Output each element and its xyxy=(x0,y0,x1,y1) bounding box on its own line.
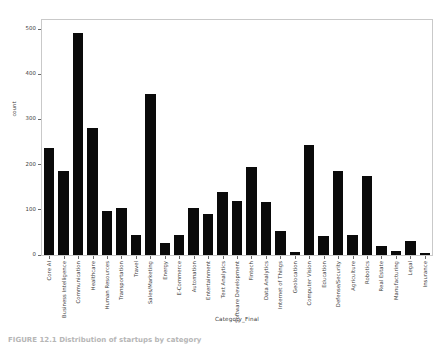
x-tick-mark xyxy=(107,256,108,259)
x-tick-label: Agriculture xyxy=(350,261,356,291)
x-tick-label: Robotics xyxy=(364,261,370,284)
figure-caption: FIGURE 12.1 Distribution of startups by … xyxy=(8,336,308,344)
bar xyxy=(333,20,343,255)
x-tick-label: Transportation xyxy=(118,261,124,300)
x-tick-mark xyxy=(425,256,426,259)
bar-rect xyxy=(290,252,300,255)
bar xyxy=(145,20,155,255)
bar xyxy=(203,20,213,255)
x-tick-mark xyxy=(179,256,180,259)
bar xyxy=(232,20,242,255)
bar-rect xyxy=(58,171,68,255)
bar-rect xyxy=(333,171,343,255)
y-tick-mark xyxy=(38,164,41,165)
bar xyxy=(44,20,54,255)
x-tick-label: Defense/Security xyxy=(335,261,341,307)
x-tick-label: Communication xyxy=(75,261,81,303)
x-tick-mark xyxy=(367,256,368,259)
x-tick-mark xyxy=(150,256,151,259)
x-tick-mark xyxy=(280,256,281,259)
x-tick-label: Energy xyxy=(162,261,168,280)
x-tick-mark xyxy=(78,256,79,259)
bar xyxy=(73,20,83,255)
bar-rect xyxy=(116,208,126,255)
x-tick-mark xyxy=(410,256,411,259)
bar xyxy=(246,20,256,255)
x-tick-mark xyxy=(338,256,339,259)
x-tick-mark xyxy=(309,256,310,259)
x-tick-mark xyxy=(64,256,65,259)
y-tick-label: 300 xyxy=(25,115,36,121)
bar-rect xyxy=(420,253,430,255)
bar-rect xyxy=(318,236,328,255)
x-tick-mark xyxy=(194,256,195,259)
y-tick-mark xyxy=(38,119,41,120)
y-tick-mark xyxy=(38,29,41,30)
x-tick-label: Computer Vision xyxy=(306,261,312,306)
bar-rect xyxy=(188,208,198,255)
x-tick-label: Travel xyxy=(133,261,139,277)
bar xyxy=(420,20,430,255)
bar-rect xyxy=(160,243,170,255)
x-tick-label: Software Development xyxy=(234,261,240,323)
bar-rect xyxy=(275,231,285,255)
bar-rect xyxy=(73,33,83,255)
x-tick-mark xyxy=(208,256,209,259)
bar xyxy=(347,20,357,255)
bar-rect xyxy=(203,214,213,255)
chart-figure: count 0100200300400500 Core AIBusiness I… xyxy=(0,0,447,344)
bar xyxy=(116,20,126,255)
x-tick-label: Business Intelligence xyxy=(61,261,67,318)
y-tick-label: 500 xyxy=(25,25,36,31)
x-tick-mark xyxy=(49,256,50,259)
y-tick-mark xyxy=(38,209,41,210)
bar-rect xyxy=(44,148,54,255)
x-tick-label: Core AI xyxy=(46,261,52,280)
bar xyxy=(391,20,401,255)
x-tick-mark xyxy=(251,256,252,259)
bar-rect xyxy=(131,235,141,255)
x-tick-label: Geolocation xyxy=(292,261,298,293)
bar xyxy=(58,20,68,255)
x-tick-mark xyxy=(324,256,325,259)
bar-rect xyxy=(347,235,357,255)
bar-rect xyxy=(261,202,271,255)
x-tick-label: Data Analytics xyxy=(263,261,269,300)
bar-series xyxy=(42,20,432,255)
x-tick-label: Fintech xyxy=(248,261,254,280)
y-tick-label: 400 xyxy=(25,70,36,76)
x-tick-label: Real Estate xyxy=(378,261,384,291)
x-tick-label: Text Analytics xyxy=(220,261,226,298)
bar xyxy=(217,20,227,255)
x-tick-mark xyxy=(237,256,238,259)
bar xyxy=(318,20,328,255)
x-tick-mark xyxy=(353,256,354,259)
bar-rect xyxy=(304,145,314,255)
bar-rect xyxy=(391,251,401,255)
x-tick-mark xyxy=(93,256,94,259)
bar xyxy=(160,20,170,255)
bar xyxy=(275,20,285,255)
bar xyxy=(405,20,415,255)
x-tick-mark xyxy=(165,256,166,259)
x-tick-mark xyxy=(266,256,267,259)
bar xyxy=(87,20,97,255)
y-tick-label: 100 xyxy=(25,206,36,212)
x-tick-label: Automation xyxy=(191,261,197,292)
bar xyxy=(131,20,141,255)
bar-rect xyxy=(246,167,256,255)
x-tick-label: Sales/Marketing xyxy=(147,261,153,304)
bar-rect xyxy=(145,94,155,255)
bar xyxy=(304,20,314,255)
x-tick-mark xyxy=(381,256,382,259)
bar-rect xyxy=(376,246,386,255)
x-axis-label: Category_Final xyxy=(42,316,432,322)
y-tick-mark xyxy=(38,74,41,75)
x-tick-label: Human Resources xyxy=(104,261,110,310)
bar xyxy=(290,20,300,255)
bar-rect xyxy=(217,192,227,255)
y-tick-label: 0 xyxy=(32,251,36,257)
x-tick-label: Internet of Things xyxy=(277,261,283,309)
y-tick-label: 200 xyxy=(25,161,36,167)
x-tick-mark xyxy=(223,256,224,259)
